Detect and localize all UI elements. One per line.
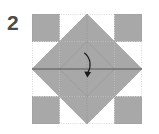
step-number: 2: [7, 11, 29, 35]
origami-figure: [32, 14, 142, 124]
corner-square-top-left: [32, 14, 60, 42]
corner-square-top-right: [115, 14, 143, 42]
diagram-root: 2: [0, 0, 159, 134]
origami-svg: [32, 14, 142, 124]
star-point-top: [60, 14, 115, 42]
corner-square-bottom-right: [115, 97, 143, 125]
corner-square-bottom-left: [32, 97, 60, 125]
